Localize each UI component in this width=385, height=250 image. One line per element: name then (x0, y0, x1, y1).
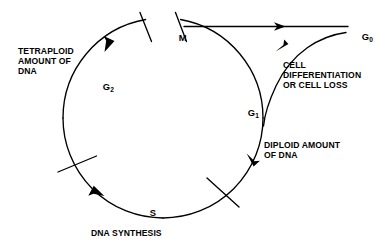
annotation-dna-synthesis: DNA SYNTHESIS (91, 228, 162, 238)
phase-label-m: M (168, 21, 187, 54)
phase-label-g0: G0 (351, 20, 373, 53)
annotation-diploid: DIPLOID AMOUNT OF DNA (264, 140, 340, 160)
phase-label-s: S (139, 196, 156, 229)
cell-cycle-svg (0, 0, 385, 250)
arrowhead-g0-return (276, 40, 289, 52)
arrowhead-g1-to-s (246, 153, 260, 166)
cycle-arc-lower-right (163, 118, 263, 218)
m-tick-left (140, 13, 152, 42)
annotation-tetraploid: TETRAPLOID AMOUNT OF DNA (18, 46, 74, 76)
cell-cycle-diagram: M G1 S G2 G0 TETRAPLOID AMOUNT OF DNA CE… (0, 0, 385, 250)
tick-s-g1 (207, 178, 239, 207)
phase-label-g2: G2 (92, 70, 114, 103)
arrowhead-g2-to-m (103, 36, 115, 53)
annotation-cell-differentiation: CELL DIFFERENTIATION OR CELL LOSS (283, 60, 361, 90)
phase-label-g1: G1 (237, 96, 259, 129)
